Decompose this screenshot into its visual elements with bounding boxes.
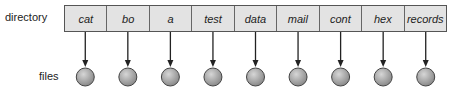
file-node [289,68,307,86]
arrowhead-icon [295,60,301,67]
file-node [119,68,137,86]
arrowhead-icon [253,60,259,67]
arrowhead-icon [167,60,173,67]
arrowhead-icon [210,60,216,67]
arrowhead-icon [423,60,429,67]
file-node [204,68,222,86]
arrowhead-icon [338,60,344,67]
file-node [417,68,435,86]
arrowhead-icon [380,60,386,67]
file-node [76,68,94,86]
file-pointers [0,0,454,94]
file-node [161,68,179,86]
file-node [247,68,265,86]
file-node [374,68,392,86]
arrowhead-icon [82,60,88,67]
arrowhead-icon [125,60,131,67]
file-node [332,68,350,86]
